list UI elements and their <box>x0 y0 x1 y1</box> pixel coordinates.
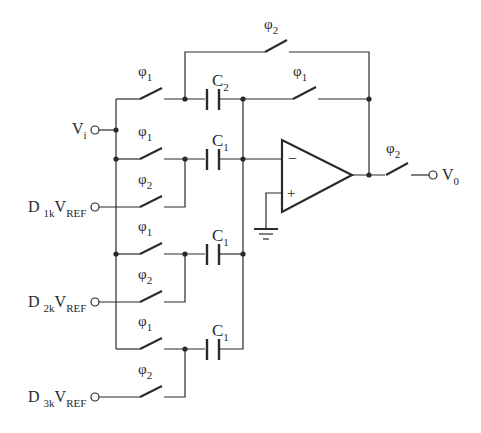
label-d3k-vref: D3kVREF <box>28 389 86 409</box>
row1-phi2-return-wire <box>164 159 185 207</box>
output-node <box>366 172 371 177</box>
label-switch-output: φ2 <box>386 141 400 160</box>
switch-row3-phi1 <box>140 338 162 349</box>
d2k-terminal <box>91 298 99 306</box>
switch-row2-phi1 <box>140 243 162 254</box>
switch-output <box>386 163 408 175</box>
label-switch-c2-input: φ1 <box>138 64 152 83</box>
label-c2: C2 <box>212 72 229 93</box>
vi-terminal <box>91 126 99 134</box>
opamp-noninverting-symbol: + <box>287 186 295 201</box>
label-switch-row2-phi1: φ1 <box>138 219 152 238</box>
v0-terminal <box>429 171 437 179</box>
d1k-terminal <box>91 203 99 211</box>
label-switch-feedback: φ1 <box>293 64 307 83</box>
label-switch-row1-phi1: φ1 <box>138 124 152 143</box>
label-d2k-vref: D2kVREF <box>28 294 86 314</box>
vi-node <box>113 127 118 132</box>
opamp-inverting-symbol: − <box>288 151 297 167</box>
d3k-terminal <box>91 393 99 401</box>
label-c1b: C1 <box>212 227 229 248</box>
label-switch-row3-phi2: φ2 <box>138 362 152 381</box>
row3-phi2-return-wire <box>164 349 185 397</box>
label-switch-top-bypass: φ2 <box>264 17 278 36</box>
switch-c2-input <box>140 88 162 99</box>
switch-top-bypass <box>265 40 287 52</box>
label-vi: Vi <box>72 121 87 141</box>
switch-row1-phi2 <box>140 196 162 207</box>
switch-feedback <box>293 87 316 99</box>
label-v0: V0 <box>442 167 459 187</box>
row2-phi2-return-wire <box>164 254 185 302</box>
label-switch-row1-phi2: φ2 <box>138 172 152 191</box>
label-switch-row2-phi2: φ2 <box>138 267 152 286</box>
label-c1c: C1 <box>212 322 229 343</box>
label-switch-row3-phi1: φ1 <box>138 314 152 333</box>
switch-row1-phi1 <box>140 148 162 159</box>
label-d1k-vref: D1kVREF <box>28 199 86 219</box>
label-c1a: C1 <box>212 132 229 153</box>
noninverting-ground-wire <box>266 193 282 229</box>
switch-row2-phi2 <box>140 291 162 302</box>
switch-row3-phi2 <box>140 386 162 397</box>
